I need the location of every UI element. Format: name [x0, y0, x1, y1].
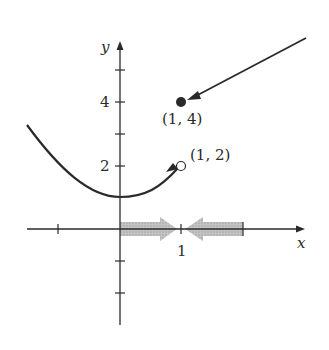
y-axis	[115, 41, 125, 325]
x-tick-label-1: 1	[177, 242, 187, 260]
open-point-label: (1, 2)	[190, 146, 230, 164]
filled-point-label: (1, 4)	[162, 110, 202, 128]
y-tick-label-4: 4	[100, 93, 110, 111]
y-tick-label-2: 2	[100, 157, 110, 175]
incoming-arrowhead-icon	[187, 91, 201, 100]
limit-diagram: y x 4 2 1 (1, 4) (1, 2)	[0, 0, 329, 350]
x-axis-label: x	[297, 234, 306, 252]
open-point	[177, 162, 186, 171]
y-axis-label: y	[100, 38, 110, 56]
filled-point	[176, 97, 186, 107]
incoming-line	[194, 38, 306, 97]
x-axis-arrow-icon	[296, 226, 305, 233]
y-axis-arrow-icon	[117, 41, 124, 50]
